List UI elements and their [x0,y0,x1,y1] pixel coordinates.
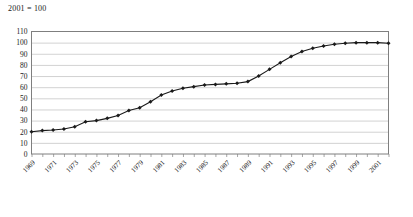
y-axis-tick-label: 20 [20,128,28,137]
chart-container: 2001 = 100 0102030405060708090100110 196… [0,0,413,217]
data-point-marker [354,41,358,45]
y-axis-tick-label: 110 [17,27,28,36]
data-point-marker [300,50,304,54]
y-axis-tick-label: 80 [20,61,28,70]
data-point-marker [84,120,88,124]
x-axis-tick-label: 1969 [21,158,37,174]
data-point-marker [246,80,250,84]
x-axis-tick-label: 1977 [108,158,124,174]
data-point-marker [73,125,77,129]
data-point-marker [203,83,207,87]
data-point-marker [213,82,217,86]
data-point-marker [30,130,34,134]
y-axis-tick-label: 10 [20,139,28,148]
data-point-marker [224,82,228,86]
data-point-marker [365,41,369,45]
y-axis-tick-labels: 0102030405060708090100110 [16,27,28,159]
data-point-marker [127,109,131,113]
x-axis-tick-label: 1983 [173,158,189,174]
y-axis-tick-label: 90 [20,50,28,59]
data-point-marker [170,89,174,93]
x-axis-tick-label: 1975 [86,158,102,174]
data-point-marker [343,41,347,45]
gridlines [32,43,389,143]
x-axis-tick-label: 1991 [259,158,275,174]
data-point-marker [105,116,109,120]
data-point-marker [311,46,315,50]
data-point-marker [94,119,98,123]
x-axis-tick-label: 1997 [324,158,340,174]
x-axis-tick-label: 1995 [303,158,319,174]
y-axis-tick-label: 70 [20,72,28,81]
data-series-line [32,43,389,132]
y-axis-tick-label: 30 [20,116,28,125]
data-point-marker [376,41,380,45]
x-axis-tick-label: 1985 [194,158,210,174]
x-axis-tick-label: 1999 [346,158,362,174]
data-point-marker [51,128,55,132]
x-axis-tick-label: 1979 [130,158,146,174]
y-axis-tick-label: 50 [20,94,28,103]
data-point-marker [62,127,66,131]
y-axis-tick-label: 100 [16,38,28,47]
data-point-marker [322,44,326,48]
y-axis-tick-label: 60 [20,83,28,92]
data-point-marker [387,41,391,45]
line-chart: 0102030405060708090100110 19691971197319… [0,0,413,217]
x-axis-tick-label: 1973 [65,158,81,174]
data-point-marker [235,81,239,85]
x-axis-tick-labels: 1969197119731975197719791981198319851987… [21,158,383,174]
data-point-marker [181,86,185,90]
data-point-marker [116,114,120,118]
x-axis-tick-label: 1971 [43,158,59,174]
y-axis-tick-label: 0 [24,150,28,159]
x-axis-tick-label: 2001 [368,158,384,174]
y-axis-tick-label: 40 [20,105,28,114]
x-axis-tick-label: 1993 [281,158,297,174]
x-axis-tick-label: 1989 [238,158,254,174]
plot-area-border [32,32,389,155]
x-axis-tick-label: 1981 [151,158,167,174]
x-axis-tick-label: 1987 [216,158,232,174]
